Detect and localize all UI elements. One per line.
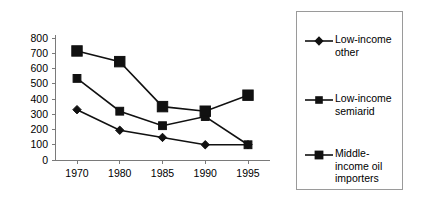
data-point-marker	[200, 106, 210, 116]
data-point-marker	[157, 101, 167, 111]
data-series	[72, 46, 253, 117]
y-tick-label: 300	[30, 108, 48, 120]
data-point-marker	[158, 133, 166, 141]
y-tick-label: 400	[30, 93, 48, 105]
chart-figure: 0100200300400500600700800 19701980198519…	[0, 0, 423, 204]
data-point-marker	[201, 141, 209, 149]
y-tick-labels: 0100200300400500600700800	[30, 32, 48, 166]
diamond-marker-icon	[304, 34, 334, 48]
x-tick-label: 1970	[65, 167, 89, 179]
data-point-marker	[116, 107, 124, 115]
series-group	[72, 46, 253, 149]
y-tick-label: 100	[30, 138, 48, 150]
legend-item-label: Low-income other	[335, 33, 392, 58]
y-tick-label: 500	[30, 77, 48, 89]
plot-panel: 0100200300400500600700800 19701980198519…	[0, 0, 285, 204]
x-axis	[55, 160, 270, 164]
y-tick-label: 800	[30, 32, 48, 44]
legend: Low-income other Low-income semiarid Mid…	[296, 11, 403, 190]
legend-item-middle-income-oil-importers[interactable]: Middle- income oil importers	[304, 147, 402, 185]
y-tick-label: 600	[30, 62, 48, 74]
y-tick-label: 200	[30, 123, 48, 135]
x-tick-label: 1995	[236, 167, 260, 179]
data-point-marker	[243, 90, 253, 100]
x-tick-label: 1990	[194, 167, 218, 179]
plot-svg: 0100200300400500600700800 19701980198519…	[0, 0, 285, 204]
y-axis	[52, 35, 56, 160]
x-tick-label: 1980	[108, 167, 132, 179]
legend-item-low-income-other[interactable]: Low-income other	[304, 33, 402, 58]
legend-item-low-income-semiarid[interactable]: Low-income semiarid	[304, 92, 402, 117]
x-tick-label: 1985	[151, 167, 175, 179]
square-marker-icon	[304, 148, 334, 162]
data-point-marker	[72, 46, 82, 56]
data-point-marker	[73, 75, 81, 83]
data-point-marker	[115, 56, 125, 66]
y-tick-label: 700	[30, 47, 48, 59]
x-tick-labels: 19701980198519901995	[65, 167, 260, 179]
legend-item-label: Low-income semiarid	[335, 92, 392, 117]
legend-item-label: Middle- income oil importers	[335, 147, 382, 185]
square-marker-icon	[304, 93, 334, 107]
data-point-marker	[73, 105, 81, 113]
data-point-marker	[159, 122, 167, 130]
y-tick-label: 0	[42, 154, 48, 166]
data-point-marker	[244, 141, 252, 149]
data-point-marker	[116, 126, 124, 134]
